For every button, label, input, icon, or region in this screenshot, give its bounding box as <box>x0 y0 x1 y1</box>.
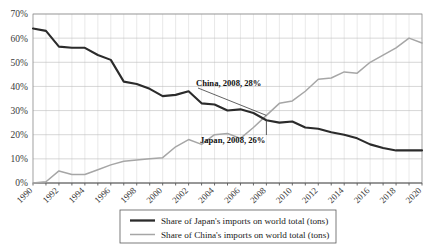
y-tick-label-10: 10% <box>11 154 29 164</box>
annotation-japan-label: Japan, 2008, 26% <box>200 135 265 145</box>
y-tick-label-40: 40% <box>11 82 29 92</box>
legend: Share of Japan's imports on world total … <box>120 210 336 243</box>
chart-container: 0%10%20%30%40%50%60%70% 1990199219941996… <box>0 0 432 248</box>
legend-label-japan: Share of Japan's imports on world total … <box>161 216 328 226</box>
y-tick-label-60: 60% <box>11 34 29 44</box>
y-tick-label-20: 20% <box>11 130 29 140</box>
annotation-china-label: China, 2008, 28% <box>196 78 261 88</box>
y-tick-label-50: 50% <box>11 58 29 68</box>
y-tick-label-70: 70% <box>11 9 29 19</box>
y-tick-label-30: 30% <box>11 106 29 116</box>
legend-label-china: Share of China's imports on world total … <box>161 230 329 240</box>
line-chart: 0%10%20%30%40%50%60%70% 1990199219941996… <box>0 0 432 248</box>
